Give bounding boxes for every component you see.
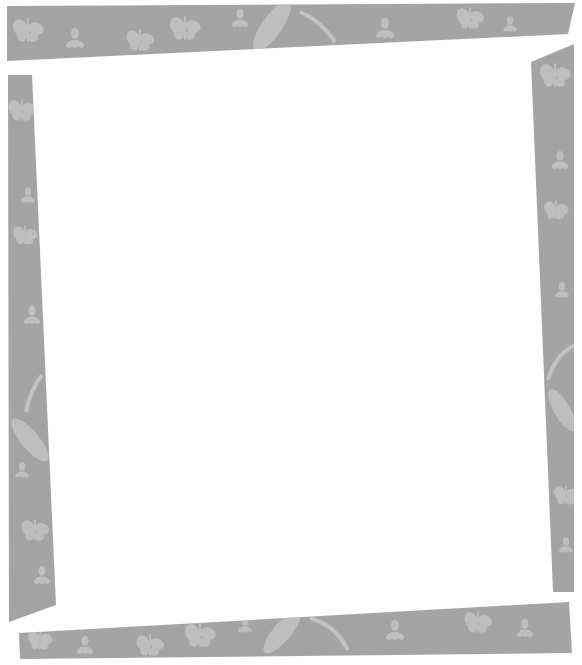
bottom-strip <box>19 602 572 659</box>
right-strip <box>531 44 581 592</box>
top-strip <box>7 0 575 61</box>
blank-content-area <box>60 70 525 595</box>
left-strip <box>6 75 56 622</box>
